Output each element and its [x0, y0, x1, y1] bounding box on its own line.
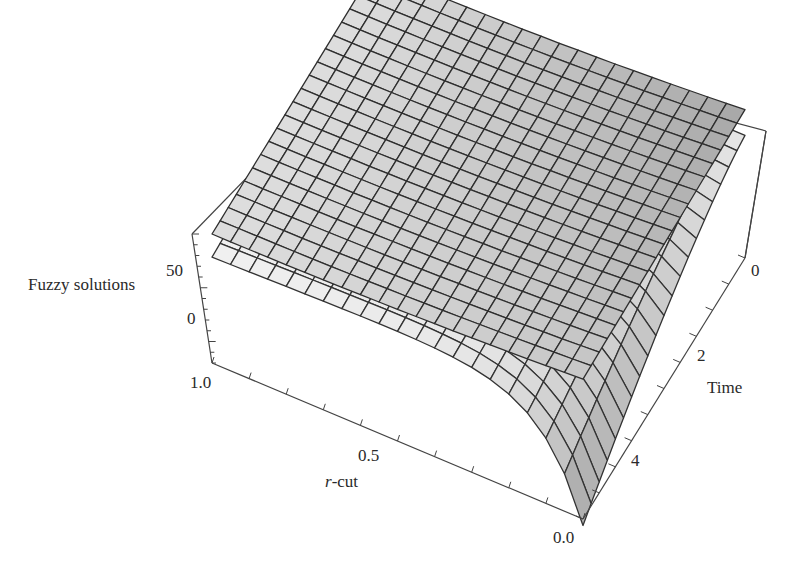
z-axis-label: Fuzzy solutions	[28, 276, 135, 293]
x-axis-label-var: r	[325, 472, 332, 491]
y-tick-2: 2	[697, 347, 706, 364]
y-tick-4: 4	[631, 452, 640, 469]
y-axis-label: Time	[707, 379, 742, 396]
x-axis-label: r-cut	[325, 473, 358, 490]
y-tick-0: 0	[751, 262, 760, 279]
upper-surface	[212, 0, 745, 379]
z-tick-50: 50	[166, 262, 183, 279]
x-tick-1: 1.0	[190, 374, 211, 391]
x-tick-05: 0.5	[358, 447, 379, 464]
z-tick-0: 0	[187, 310, 196, 327]
x-axis-label-suffix: -cut	[332, 472, 358, 491]
x-tick-0: 0.0	[553, 529, 574, 546]
